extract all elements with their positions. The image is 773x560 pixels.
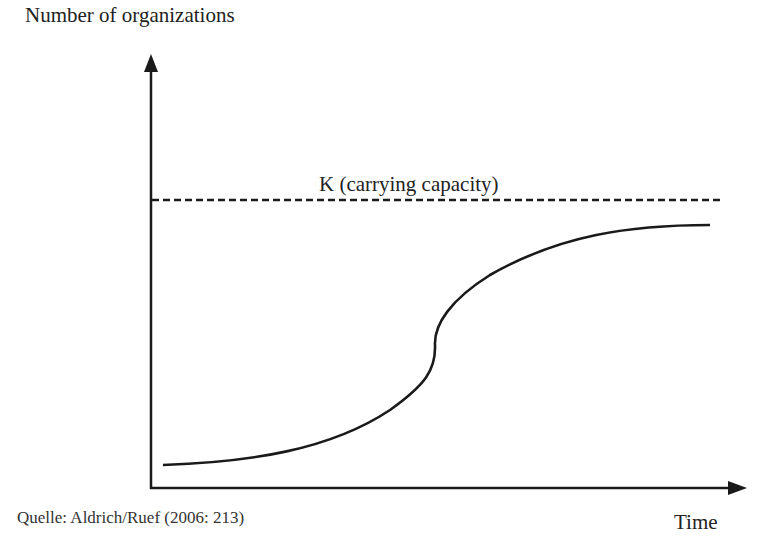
plot-area — [0, 0, 773, 560]
y-axis — [144, 54, 158, 489]
x-axis — [150, 481, 747, 495]
x-axis-arrow-icon — [728, 481, 747, 495]
y-axis-arrow-icon — [144, 54, 158, 72]
s-curve — [163, 225, 710, 465]
logistic-growth-diagram: Number of organizations K (carrying capa… — [0, 0, 773, 560]
